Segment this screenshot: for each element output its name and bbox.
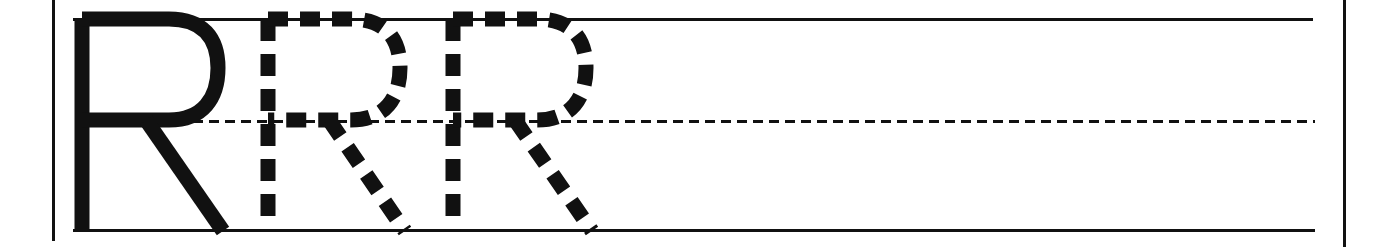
model-letter-r-solid bbox=[73, 16, 235, 234]
right-margin-rule bbox=[1343, 0, 1346, 247]
blank-practice-space bbox=[610, 21, 1315, 229]
left-margin-rule bbox=[52, 0, 55, 241]
handwriting-worksheet-row bbox=[0, 0, 1388, 247]
tracing-letter-r-dashed-2 bbox=[444, 16, 602, 234]
tracing-letter-r-dashed-1 bbox=[259, 16, 415, 234]
